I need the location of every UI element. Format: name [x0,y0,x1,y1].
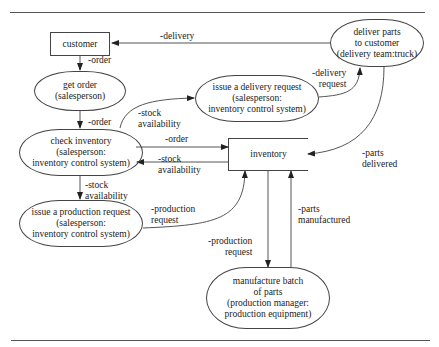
node-issue-production-request: issue a production request (salesperson:… [19,200,143,247]
node-label: issue a production request (salesperson:… [32,207,131,240]
edge-label-stock-back: -stock availability [158,154,201,175]
edge-label-production-request-2: -production request [208,236,252,257]
node-inventory: inventory [228,138,308,171]
node-deliver-parts: deliver parts to customer (delivery team… [330,19,424,67]
node-get-order: get order (salesperson) [34,71,126,111]
edge-label-stock-up: -stock availability [138,108,181,129]
edge-label-delivery: -delivery [160,31,194,42]
node-manufacture-batch: manufacture batch of parts (production m… [206,267,330,329]
edge-label-delivery-request: -delivery request [312,68,346,89]
node-label: deliver parts to customer (delivery team… [337,27,417,60]
edge-label-parts-manufactured: -parts manufactured [298,204,350,225]
node-label: manufacture batch of parts (production m… [225,276,312,320]
node-issue-delivery-request: issue a delivery request (salesperson: i… [195,75,319,122]
node-label: inventory [250,149,286,160]
edge-label-order-3: -order [165,134,188,145]
diagram-canvas: customer get order (salesperson) check i… [0,0,439,347]
node-label: check inventory (salesperson: inventory … [32,136,130,169]
edge-label-stock-down: -stock availability [85,180,128,201]
edge-label-order-1: -order [88,55,111,66]
edge-label-order-2: -order [88,117,111,128]
node-label: customer [63,39,98,50]
edge-label-production-request-1: -production request [151,204,195,225]
node-label: get order (salesperson) [55,80,105,102]
edge-label-parts-delivered: -parts delivered [362,148,397,169]
node-label: issue a delivery request (salesperson: i… [208,82,306,115]
node-check-inventory: check inventory (salesperson: inventory … [19,129,143,176]
node-customer: customer [50,32,110,56]
